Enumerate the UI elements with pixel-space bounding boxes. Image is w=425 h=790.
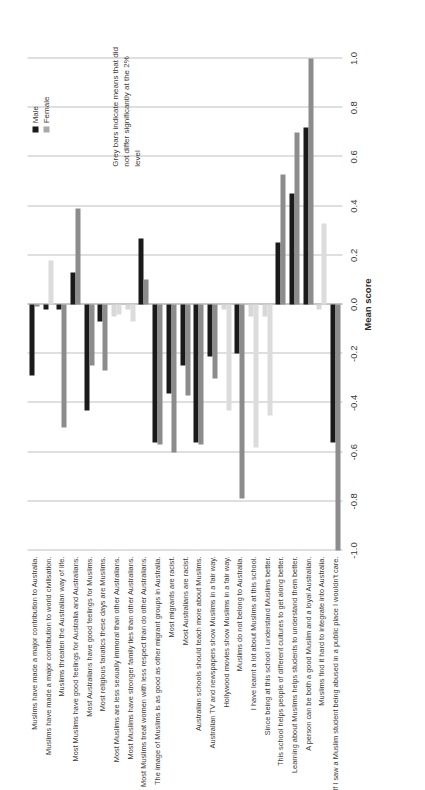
value-tick-label: -0.4 <box>347 394 358 410</box>
category-label: Most Muslims are less sexually immoral t… <box>112 556 119 762</box>
bar-female <box>308 58 313 304</box>
category-label: Muslims do not belong to Australia. <box>236 556 243 671</box>
category-label: Muslims have made a major contribution t… <box>30 556 37 729</box>
category-label: I have learnt a lot about Muslims at thi… <box>249 556 256 710</box>
bar-male <box>166 304 171 393</box>
bar-female <box>157 304 162 444</box>
legend-swatch-icon <box>32 126 38 132</box>
bar-male <box>275 243 280 305</box>
bar-male <box>70 272 75 304</box>
bar-male <box>330 304 335 442</box>
legend-item-female[interactable]: Female <box>41 96 50 132</box>
bar-female <box>171 304 176 452</box>
bar-female <box>143 279 148 304</box>
category-label: Muslims find it hard to integrate into A… <box>318 556 325 705</box>
gridline <box>27 57 342 58</box>
bar-female <box>226 304 231 410</box>
bar-male <box>207 304 212 356</box>
gridline <box>27 106 342 107</box>
category-label: Learning about Muslims helps students to… <box>290 556 297 773</box>
bar-male <box>138 238 143 304</box>
category-label: Since being at this school I understand … <box>263 556 270 735</box>
bar-female <box>212 304 217 378</box>
category-label: Most migrants are racist. <box>167 556 174 637</box>
bar-male <box>316 304 321 309</box>
legend-label: Male <box>30 105 39 122</box>
category-label: Australian TV and newspapers show Muslim… <box>208 556 215 748</box>
bar-female <box>253 304 258 447</box>
value-tick-label: 0.4 <box>347 199 358 212</box>
category-label: Australian schools should teach more abo… <box>194 556 201 731</box>
category-label: Most Muslims have stronger family ties t… <box>126 556 133 759</box>
category-label: If I saw a Muslim student being abused i… <box>331 556 338 790</box>
value-tick-label: 1.0 <box>347 51 358 64</box>
value-tick-label: 0.0 <box>347 297 358 310</box>
bar-male <box>111 304 116 316</box>
bar-female <box>102 304 107 370</box>
value-tick-label: -0.6 <box>347 443 358 459</box>
category-label: Most Muslims have good feelings for Aust… <box>71 556 78 761</box>
bar-male <box>29 304 34 375</box>
value-tick-label: 0.6 <box>347 150 358 163</box>
bar-male <box>56 304 61 309</box>
legend: MaleFemale <box>30 96 52 132</box>
legend-label: Female <box>41 96 50 123</box>
plot-area <box>27 58 342 550</box>
legend-swatch-icon <box>43 126 49 132</box>
x-axis-title: Mean score <box>361 278 372 330</box>
category-label: This school helps people of different cu… <box>277 556 284 765</box>
value-tick-label: -1.0 <box>347 542 358 558</box>
category-label: Most Australians are racist. <box>181 556 188 645</box>
bar-female <box>321 223 326 304</box>
bar-male <box>152 304 157 442</box>
bar-female <box>130 304 135 321</box>
bar-male <box>248 304 253 316</box>
bar-male <box>84 304 89 410</box>
bar-female <box>89 304 94 366</box>
bar-male <box>43 304 48 309</box>
category-label: A person can be both a good Muslim and a… <box>304 556 311 750</box>
bar-female <box>116 304 121 314</box>
category-label: Hollywood movies show Muslims in a fair … <box>222 556 229 707</box>
bar-female <box>239 304 244 498</box>
category-label: Most religious fanatics these days are M… <box>99 556 106 711</box>
category-label: Most Australians have good feelings for … <box>85 556 92 716</box>
bar-female <box>61 304 66 427</box>
bar-male <box>234 304 239 353</box>
bar-female <box>267 304 272 415</box>
category-label: Muslims have made a major contribution t… <box>44 556 51 754</box>
bar-female <box>34 304 39 306</box>
bar-male <box>303 127 308 304</box>
bar-male <box>193 304 198 442</box>
bar-male <box>125 304 130 309</box>
value-tick-label: -0.8 <box>347 493 358 509</box>
gridline <box>27 451 342 452</box>
bar-female <box>48 260 53 304</box>
bar-male <box>262 304 267 316</box>
bar-male <box>97 304 102 321</box>
category-label: The image of Muslims is as good as other… <box>153 556 160 784</box>
value-tick-label: 0.2 <box>347 248 358 261</box>
gridline <box>27 549 342 550</box>
significance-note: Grey bars indicate means that did not di… <box>110 38 142 166</box>
bar-female <box>280 174 285 304</box>
gridline <box>27 500 342 501</box>
category-label: Muslims threaten the Australian way of l… <box>58 556 65 696</box>
bar-male <box>289 193 294 304</box>
bar-female <box>185 304 190 395</box>
bar-female <box>335 304 340 550</box>
bar-male <box>221 304 226 309</box>
legend-item-male[interactable]: Male <box>30 96 39 132</box>
value-tick-label: -0.2 <box>347 345 358 361</box>
value-tick-label: 0.8 <box>347 101 358 114</box>
category-axis-labels: Muslims have made a major contribution t… <box>27 553 342 733</box>
bar-male <box>180 304 185 366</box>
gridline <box>27 401 342 402</box>
bar-female <box>198 304 203 444</box>
bar-female <box>75 208 80 304</box>
category-label: Most Muslims treat women with less respe… <box>140 556 147 786</box>
bar-female <box>294 132 299 304</box>
